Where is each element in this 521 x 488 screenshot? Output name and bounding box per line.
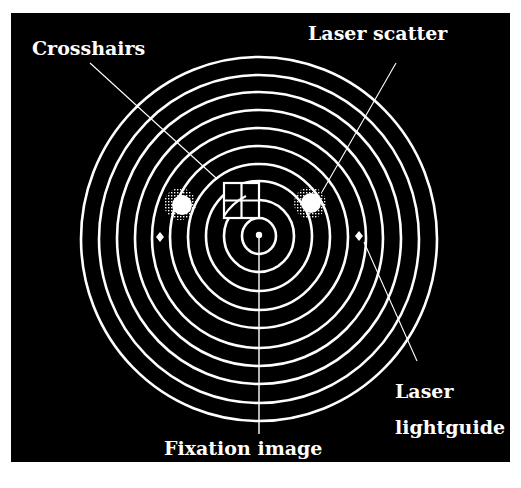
fixation-center-dot (256, 232, 262, 238)
laser-scatter-spot-left (164, 188, 196, 220)
label-crosshairs: Crosshairs (32, 37, 145, 59)
laser-scatter-spot-right (294, 187, 326, 219)
label-laser-lightguide-line1: Laser (395, 380, 454, 402)
label-laser-lightguide-line2: lightguide (395, 416, 505, 438)
fixation-target-diagram: Crosshairs Laser scatter Laser lightguid… (0, 0, 521, 488)
label-fixation-image: Fixation image (164, 437, 322, 459)
label-laser-scatter: Laser scatter (308, 22, 448, 44)
crosshairs-grid (224, 183, 259, 218)
